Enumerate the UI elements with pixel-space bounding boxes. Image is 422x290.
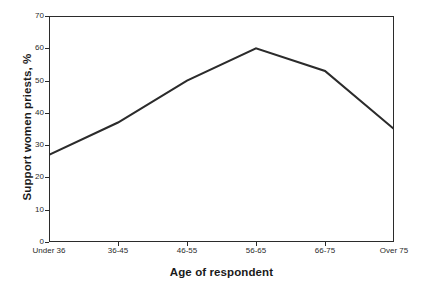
y-tick-mark: [45, 16, 49, 17]
chart-container: Support women priests, % 010203040506070…: [0, 0, 422, 290]
x-tick-mark: [118, 242, 119, 246]
y-tick-mark: [45, 48, 49, 49]
x-tick-mark: [187, 242, 188, 246]
y-tick-label: 20: [24, 173, 44, 181]
y-tick-label: 40: [24, 109, 44, 117]
y-tick-label: 50: [24, 77, 44, 85]
x-tick-label: Over 75: [359, 246, 422, 255]
x-tick-label: 56-65: [221, 246, 291, 255]
x-tick-label: 66-75: [290, 246, 360, 255]
y-tick-label: 10: [24, 206, 44, 214]
y-tick-mark: [45, 242, 49, 243]
data-line-plot: [49, 16, 394, 242]
x-tick-mark: [256, 242, 257, 246]
x-tick-label: 46-55: [152, 246, 222, 255]
y-tick-mark: [45, 113, 49, 114]
y-tick-label: 60: [24, 44, 44, 52]
y-tick-mark: [45, 145, 49, 146]
series-line-support-women-priests: [49, 48, 394, 155]
x-tick-label: Under 36: [14, 246, 84, 255]
x-tick-label: 36-45: [83, 246, 153, 255]
y-tick-label: 0: [24, 238, 44, 246]
x-axis-title: Age of respondent: [49, 266, 394, 278]
x-tick-mark: [325, 242, 326, 246]
y-tick-label: 70: [24, 12, 44, 20]
y-tick-mark: [45, 81, 49, 82]
y-tick-label: 30: [24, 141, 44, 149]
y-tick-mark: [45, 177, 49, 178]
y-tick-mark: [45, 210, 49, 211]
